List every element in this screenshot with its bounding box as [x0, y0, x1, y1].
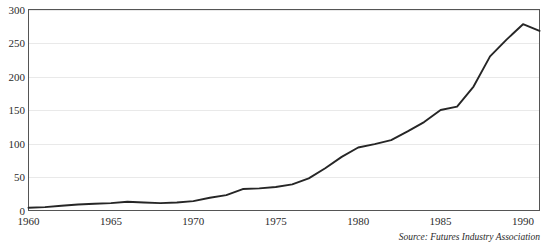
x-axis-tick-label: 1965 [100, 215, 123, 227]
line-chart: 050100150200250300 196019651970197519801… [0, 0, 548, 246]
x-axis-tick-label: 1960 [18, 215, 41, 227]
x-axis-tick-labels: 1960196519701975198019851990 [18, 215, 535, 227]
x-axis-tick-label: 1990 [512, 215, 535, 227]
y-axis-tick-labels: 050100150200250300 [9, 4, 26, 217]
x-axis-tick-label: 1975 [265, 215, 288, 227]
y-axis-tick-label: 100 [9, 138, 26, 150]
y-axis-tick-label: 150 [9, 104, 26, 116]
source-attribution: Source: Futures Industry Association [399, 232, 540, 242]
gridlines [29, 11, 540, 178]
y-axis-tick-label: 200 [9, 71, 26, 83]
data-series-line [29, 24, 540, 208]
y-axis-tick-label: 50 [14, 171, 26, 183]
y-axis-tick-label: 300 [9, 4, 26, 16]
chart-figure: 050100150200250300 196019651970197519801… [0, 0, 548, 246]
x-axis-tick-label: 1970 [182, 215, 205, 227]
x-axis-tick-label: 1980 [347, 215, 370, 227]
x-axis-tick-label: 1985 [430, 215, 453, 227]
y-axis-tick-label: 250 [9, 37, 26, 49]
